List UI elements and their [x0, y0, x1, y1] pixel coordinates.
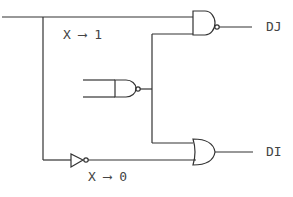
- label-dj: DJ: [266, 19, 282, 34]
- label-di: DI: [266, 144, 282, 159]
- not-gate: [71, 154, 88, 167]
- label-x-low: X ⟶ 0: [88, 169, 127, 184]
- label-x-high: X ⟶ 1: [63, 27, 102, 42]
- nand-gate-middle: [115, 80, 140, 97]
- nand-gate-top: [193, 11, 219, 35]
- or-gate-bottom: [193, 139, 215, 165]
- logic-circuit-diagram: X ⟶ 1 X ⟶ 0 DJ DI: [0, 0, 293, 197]
